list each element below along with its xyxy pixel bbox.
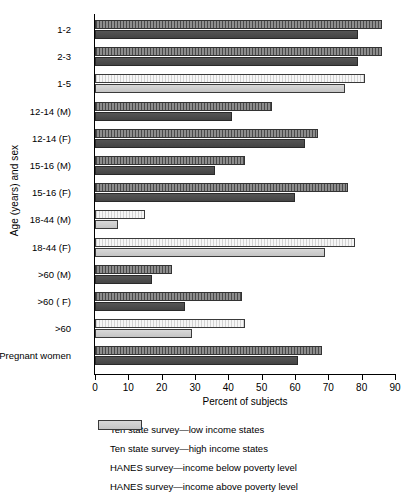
bar-group bbox=[95, 265, 395, 287]
bar bbox=[95, 248, 325, 257]
x-axis-tick-label: 90 bbox=[380, 382, 410, 393]
x-axis-tick-label: 0 bbox=[80, 382, 110, 393]
x-axis-tick bbox=[262, 374, 263, 380]
x-axis-tick bbox=[395, 374, 396, 380]
x-axis-tick bbox=[228, 374, 229, 380]
bar-group bbox=[95, 20, 395, 42]
legend-item: HANES survey—income below poverty level bbox=[98, 458, 408, 477]
bar bbox=[95, 47, 382, 56]
bar bbox=[95, 356, 298, 365]
bar-row bbox=[95, 220, 395, 229]
category-label: 15-16 (F) bbox=[0, 187, 71, 198]
bar-row bbox=[95, 329, 395, 338]
bar-group bbox=[95, 47, 395, 69]
category-label: 18-44 (M) bbox=[0, 214, 71, 225]
bar-row bbox=[95, 47, 395, 56]
bar bbox=[95, 74, 365, 83]
bar bbox=[95, 139, 305, 148]
bar-row bbox=[95, 265, 395, 274]
x-axis-tick bbox=[328, 374, 329, 380]
category-label: 1-2 bbox=[0, 24, 71, 35]
bar-row bbox=[95, 57, 395, 66]
bar bbox=[95, 84, 345, 93]
bar-row bbox=[95, 84, 395, 93]
plot-area: 1-22-31-512-14 (M)12-14 (F)15-16 (M)15-1… bbox=[95, 14, 395, 374]
bar-row bbox=[95, 112, 395, 121]
bar bbox=[95, 329, 192, 338]
bar-row bbox=[95, 193, 395, 202]
bar-group bbox=[95, 74, 395, 96]
bar-row bbox=[95, 102, 395, 111]
x-axis-tick bbox=[362, 374, 363, 380]
legend-item: Ten state survey—low income states bbox=[98, 420, 408, 439]
x-axis-tick-label: 60 bbox=[280, 382, 310, 393]
bar bbox=[95, 102, 272, 111]
bar-row bbox=[95, 302, 395, 311]
x-axis-tick-label: 80 bbox=[347, 382, 377, 393]
legend-label: HANES survey—income below poverty level bbox=[110, 462, 297, 473]
x-axis-tick-label: 50 bbox=[247, 382, 277, 393]
bar-group bbox=[95, 102, 395, 124]
legend-label: HANES survey—income above poverty level bbox=[110, 481, 298, 492]
bar-row bbox=[95, 30, 395, 39]
bar bbox=[95, 292, 242, 301]
x-axis-line bbox=[94, 374, 395, 375]
category-label: >60 ( F) bbox=[0, 296, 71, 307]
bar bbox=[95, 20, 382, 29]
bar-row bbox=[95, 20, 395, 29]
category-label: 12-14 (F) bbox=[0, 133, 71, 144]
bar-row bbox=[95, 346, 395, 355]
bar-group bbox=[95, 319, 395, 341]
bar-group bbox=[95, 183, 395, 205]
x-axis-tick-label: 30 bbox=[180, 382, 210, 393]
bar-group bbox=[95, 346, 395, 368]
bar-row bbox=[95, 292, 395, 301]
bar-row bbox=[95, 74, 395, 83]
category-label: Pregnant women bbox=[0, 350, 71, 361]
legend: Ten state survey—low income statesTen st… bbox=[98, 420, 408, 496]
legend-item: HANES survey—income above poverty level bbox=[98, 477, 408, 496]
category-label: 15-16 (M) bbox=[0, 160, 71, 171]
bar-row bbox=[95, 248, 395, 257]
bar bbox=[95, 265, 172, 274]
bar bbox=[95, 129, 318, 138]
bar-group bbox=[95, 238, 395, 260]
bar-row bbox=[95, 319, 395, 328]
legend-item: Ten state survey—high income states bbox=[98, 439, 408, 458]
category-label: >60 bbox=[0, 323, 71, 334]
bar-row bbox=[95, 275, 395, 284]
category-label: 12-14 (M) bbox=[0, 106, 71, 117]
x-axis-tick-label: 20 bbox=[147, 382, 177, 393]
x-axis-tick-label: 70 bbox=[313, 382, 343, 393]
x-axis-tick bbox=[128, 374, 129, 380]
category-label: 18-44 (F) bbox=[0, 242, 71, 253]
bar bbox=[95, 238, 355, 247]
bar-chart: Age (years) and sex 1-22-31-512-14 (M)12… bbox=[0, 0, 413, 502]
bar bbox=[95, 57, 358, 66]
bar bbox=[95, 156, 245, 165]
x-axis-tick bbox=[162, 374, 163, 380]
bar bbox=[95, 183, 348, 192]
bar bbox=[95, 193, 295, 202]
bar-row bbox=[95, 166, 395, 175]
category-label: 1-5 bbox=[0, 78, 71, 89]
x-axis-tick bbox=[195, 374, 196, 380]
x-axis-tick-label: 10 bbox=[113, 382, 143, 393]
bar-group bbox=[95, 129, 395, 151]
legend-swatch bbox=[98, 420, 142, 430]
category-label: 2-3 bbox=[0, 51, 71, 62]
bar-row bbox=[95, 210, 395, 219]
x-axis-tick-label: 40 bbox=[213, 382, 243, 393]
bar bbox=[95, 275, 152, 284]
bar bbox=[95, 112, 232, 121]
bar-group bbox=[95, 156, 395, 178]
bar-row bbox=[95, 238, 395, 247]
bar bbox=[95, 319, 245, 328]
bar bbox=[95, 210, 145, 219]
bar-row bbox=[95, 129, 395, 138]
bar-row bbox=[95, 139, 395, 148]
legend-label: Ten state survey—high income states bbox=[110, 443, 268, 454]
bar-row bbox=[95, 356, 395, 365]
bar-group bbox=[95, 292, 395, 314]
bar-row bbox=[95, 156, 395, 165]
